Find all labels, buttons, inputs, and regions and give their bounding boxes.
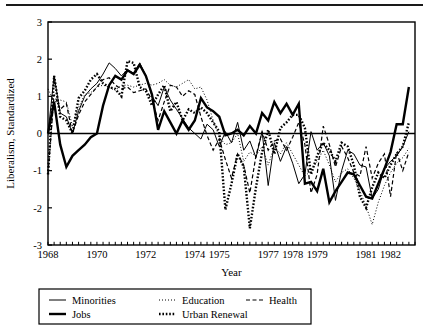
y-axis-tick-label: 0 [37,128,42,139]
x-axis-tick-label: 1981 [356,249,377,260]
legend-label-minorities: Minorities [72,295,116,306]
x-axis-tick-label: 1975 [209,249,230,260]
x-axis-tick-label: 1972 [135,249,156,260]
x-axis-tick-label: 1977 [258,249,279,260]
legend-label-health: Health [269,295,298,306]
legend-label-urban-renewal: Urban Renewal [182,309,248,320]
y-axis-title: Liberalism, Standardized [4,78,16,189]
y-axis-tick-label: -2 [33,203,42,214]
chart-figure: 1968197019721974197519771978197919811982… [0,0,429,332]
x-axis-title: Year [221,266,242,278]
series-line-urban-renewal [48,61,409,228]
x-axis-tick-label: 1978 [282,249,303,260]
x-axis-tick-label: 1974 [184,249,206,260]
y-axis-tick-label: -1 [33,165,42,176]
y-axis-tick-label: 3 [37,17,42,28]
x-axis-tick-label: 1979 [307,249,328,260]
x-axis-tick-label: 1982 [380,249,401,260]
y-axis-tick-label: 1 [37,91,42,102]
legend-label-education: Education [182,295,225,306]
x-axis-tick-label: 1970 [86,249,107,260]
series-line-education [48,80,409,225]
legend-label-jobs: Jobs [72,309,91,320]
top-horizontal-rule [6,4,423,6]
y-axis-tick-label: 2 [37,54,42,65]
y-axis-tick-label: -3 [33,240,42,251]
liberalism-line-chart: 1968197019721974197519771978197919811982… [0,0,429,332]
